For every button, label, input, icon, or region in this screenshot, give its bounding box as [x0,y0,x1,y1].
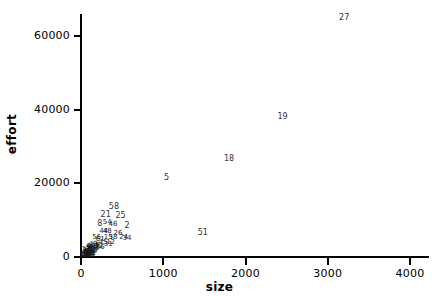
data-point: 51 [198,229,208,237]
scatter-plot-figure: 0200004000060000 effort 0100020003000400… [0,0,439,296]
data-point: 34 [123,234,132,241]
data-point: 59 [86,252,95,259]
data-point-layer: 2719185515821258544624448265661153824343… [0,0,439,296]
data-point: 2 [125,222,130,230]
data-point: 18 [224,155,234,163]
data-point: 5 [164,174,169,182]
data-point: 12 [106,238,115,245]
data-point: 27 [339,14,349,22]
data-point: 19 [277,113,287,121]
